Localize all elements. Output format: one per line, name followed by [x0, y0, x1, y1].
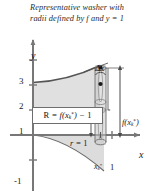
washer-center-point: [98, 82, 102, 86]
y-axis-arrow: [31, 39, 36, 45]
x-axis-arrow: [134, 133, 140, 138]
outer-radius-label: R = f(xk*) − 1: [43, 110, 91, 120]
height-label: f(xk*): [122, 118, 139, 127]
y-tick-label-neg1: -1: [14, 177, 22, 186]
x-tick-label-1: 1: [110, 163, 114, 172]
y-axis-label: y: [31, 51, 35, 61]
figure-washer-diagram: Representative washer with radii defined…: [0, 0, 154, 191]
upper-shaded-region: [33, 66, 100, 111]
caption-line-2: radii defined by f and y = 1: [0, 13, 154, 24]
outer-radius-label-box: R = f(xk*) − 1: [32, 107, 103, 124]
y-tick-label-2: 2: [19, 102, 24, 111]
y-tick-label-1: 1: [19, 127, 24, 136]
sample-point-label: xk*: [94, 163, 102, 172]
plot-area: R = f(xk*) − 1 y x 3 2 1 -1 Δx f(xk*) r …: [0, 24, 154, 191]
x-axis-label: x: [139, 150, 143, 160]
inner-radius-label: r = 1: [70, 139, 88, 148]
y-tick-label-3: 3: [19, 77, 24, 86]
thickness-label: Δx: [95, 64, 104, 73]
figure-caption: Representative washer with radii defined…: [0, 2, 154, 24]
caption-line-1: Representative washer with: [30, 3, 124, 12]
